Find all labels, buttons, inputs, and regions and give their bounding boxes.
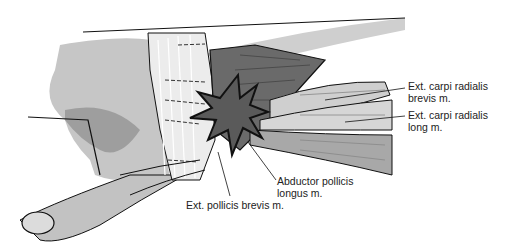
leader-epb: [218, 152, 230, 196]
label-line: brevis m.: [408, 92, 488, 104]
label-ext-pollicis-brevis: Ext. pollicis brevis m.: [186, 199, 284, 211]
label-line: Ext. pollicis brevis m.: [186, 199, 284, 211]
label-line: Ext. carpi radialis: [408, 109, 488, 121]
label-line: Ext. carpi radialis: [408, 80, 488, 92]
label-ext-carpi-radialis-brevis: Ext. carpi radialis brevis m.: [408, 80, 488, 104]
label-line: long m.: [408, 121, 488, 133]
label-line: Abductor pollicis: [277, 175, 353, 187]
label-abductor-pollicis-longus: Abductor pollicis longus m.: [277, 175, 353, 199]
label-line: longus m.: [277, 187, 353, 199]
thumbnail: [22, 212, 54, 234]
label-ext-carpi-radialis-longus: Ext. carpi radialis long m.: [408, 109, 488, 133]
